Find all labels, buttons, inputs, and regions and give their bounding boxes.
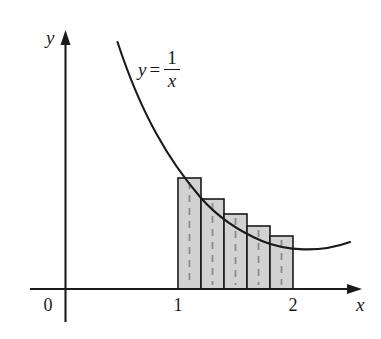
y-axis-label: y [46,28,54,47]
x-axis-label: x [356,295,364,314]
x-tick-label-1: 1 [169,296,187,314]
equation-left-side: y [138,59,146,81]
x-axis-arrow-icon [347,284,362,294]
origin-label: 0 [39,296,57,314]
equation-equals-sign: = [149,59,160,81]
graph-canvas [0,0,381,339]
fraction-numerator: 1 [164,48,180,68]
y-axis-arrow-icon [61,30,71,45]
fraction-denominator: x [165,71,179,91]
equation-fraction: 1 x [164,48,180,91]
midpoint-rectangle [224,214,247,289]
figure-container: y x 0 1 2 y = 1 x [0,0,381,339]
x-tick-label-2: 2 [284,296,302,314]
curve-equation-label: y = 1 x [138,48,180,91]
